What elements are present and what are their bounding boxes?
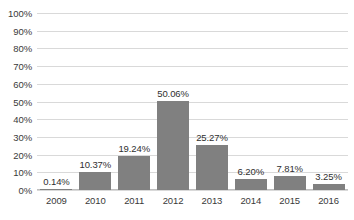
bar-value-label: 6.20% [238,166,264,177]
bar[interactable] [40,189,72,191]
x-axis-tick-label: 2010 [76,191,115,213]
x-axis-tick-label: 2011 [115,191,154,213]
bar-group: 3.25% [309,13,348,190]
y-axis-tick-label: 0% [18,185,32,196]
y-axis-tick-label: 30% [13,131,32,142]
bar-group: 7.81% [270,13,309,190]
bar-group: 25.27% [193,13,232,190]
x-axis-tick-label: 2012 [154,191,193,213]
y-axis-tick-label: 60% [13,78,32,89]
x-axis-tick-label: 2009 [37,191,76,213]
bar[interactable] [118,156,150,190]
bar-group: 0.14% [37,13,76,190]
bar-value-label: 7.81% [276,163,302,174]
bar[interactable] [196,145,228,190]
bar-value-label: 50.06% [157,88,189,99]
bar[interactable] [313,184,345,190]
plot-area: 0.14%10.37%19.24%50.06%25.27%6.20%7.81%3… [37,13,348,190]
x-axis-tick-label: 2013 [193,191,232,213]
y-axis-tick-label: 70% [13,61,32,72]
y-axis-tick-label: 20% [13,149,32,160]
x-axis: 20092010201120122013201420152016 [37,191,348,213]
bar-value-label: 10.37% [80,159,112,170]
y-axis-tick-label: 90% [13,25,32,36]
x-axis-tick-label: 2016 [309,191,348,213]
y-axis-tick-label: 10% [13,167,32,178]
y-axis-tick-label: 80% [13,43,32,54]
bar[interactable] [157,101,189,190]
bar-value-label: 0.14% [43,176,69,187]
bar-chart: 100%90%80%70%60%50%40%30%20%10%0% 0.14%1… [0,0,354,220]
bar-group: 19.24% [115,13,154,190]
bar-value-label: 3.25% [315,171,341,182]
bar[interactable] [274,176,306,190]
bar[interactable] [79,172,111,190]
bar-group: 6.20% [231,13,270,190]
bar-value-label: 25.27% [196,132,228,143]
bar-group: 10.37% [76,13,115,190]
bar[interactable] [235,179,267,190]
x-axis-tick-label: 2015 [270,191,309,213]
x-axis-tick-label: 2014 [231,191,270,213]
bar-value-label: 19.24% [118,143,150,154]
y-axis-tick-label: 50% [13,96,32,107]
y-axis-tick-label: 100% [8,8,32,19]
bar-group: 50.06% [154,13,193,190]
y-axis-tick-label: 40% [13,114,32,125]
y-axis: 100%90%80%70%60%50%40%30%20%10%0% [0,0,36,220]
bars-series: 0.14%10.37%19.24%50.06%25.27%6.20%7.81%3… [37,13,348,190]
